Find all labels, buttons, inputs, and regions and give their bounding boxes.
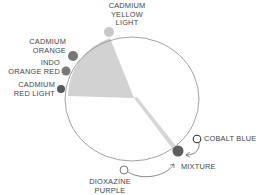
- warm-range-wedge: [68, 38, 134, 98]
- cadmium-orange-dot: [68, 51, 78, 61]
- indo-orange-red-dot: [62, 67, 71, 76]
- mixture-dot: [173, 146, 184, 157]
- label-cobalt-blue: COBALT BLUE: [204, 135, 256, 144]
- label-cadmium-yellow-light: CADMIUM YELLOW LIGHT: [106, 2, 148, 28]
- label-dioxazine-purple: DIOXAZINE PURPLE: [80, 178, 140, 195]
- label-mixture: MIXTURE: [181, 163, 216, 172]
- label-indo-orange-red: INDO ORANGE RED: [4, 59, 60, 76]
- purple-to-mixture-arrow: [128, 164, 174, 177]
- cadmium-yellow-light-dot: [104, 27, 114, 37]
- dioxazine-purple-dot: [120, 166, 128, 174]
- cadmium-red-light-dot: [57, 85, 65, 93]
- mixture-pointer: [134, 97, 176, 148]
- label-cadmium-orange: CADMIUM ORANGE: [10, 38, 66, 55]
- label-cadmium-red-light: CADMIUM RED LIGHT: [0, 81, 55, 98]
- cobalt-blue-dot: [193, 135, 201, 143]
